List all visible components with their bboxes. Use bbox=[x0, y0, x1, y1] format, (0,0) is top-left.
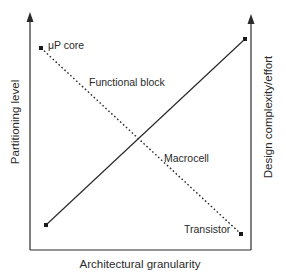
macrocell-label: Macrocell bbox=[164, 152, 209, 164]
left-axis-arrow-icon bbox=[27, 12, 34, 22]
up-core-point bbox=[39, 46, 43, 50]
transistor-label: Transistor bbox=[184, 223, 231, 235]
right-axis-arrow-icon bbox=[248, 14, 255, 24]
partitioning-diagram: μP core Functional block Macrocell Trans… bbox=[0, 0, 286, 280]
complexity-high-point bbox=[243, 37, 247, 41]
complexity-low-point bbox=[44, 223, 48, 227]
y-left-axis-label: Partitioning level bbox=[9, 80, 21, 164]
diagram-canvas: μP core Functional block Macrocell Trans… bbox=[0, 0, 286, 280]
x-axis-label: Architectural granularity bbox=[80, 258, 201, 270]
functional-block-label: Functional block bbox=[89, 76, 166, 88]
y-right-axis-label: Design complexity/effort bbox=[262, 55, 274, 178]
design-complexity-line bbox=[46, 39, 245, 225]
transistor-point bbox=[239, 232, 243, 236]
up-core-label: μP core bbox=[48, 39, 84, 51]
